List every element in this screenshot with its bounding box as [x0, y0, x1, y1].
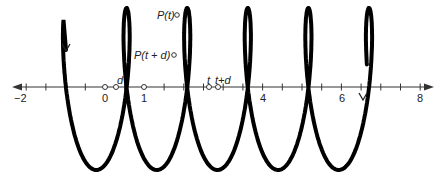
tick-label-0: 0 [102, 93, 108, 104]
label-p-t-plus-d: P(t + d) [134, 50, 170, 61]
label-t: t [207, 75, 210, 86]
point-zero [103, 85, 108, 90]
right-arrow-icon [424, 84, 434, 91]
left-arrow-icon [12, 84, 22, 91]
point-p-t-plus-d [172, 53, 177, 58]
tick-label-neg2: −2 [14, 93, 27, 104]
tick-label-1: 1 [141, 93, 147, 104]
tick-label-6: 6 [339, 93, 345, 104]
point-p-t [175, 13, 180, 18]
tick-label-4: 4 [260, 93, 266, 104]
label-t-plus-d: t+d [215, 75, 231, 86]
tick-label-8: 8 [417, 93, 423, 104]
point-one [142, 85, 147, 90]
label-p-t: P(t) [157, 10, 175, 21]
label-d: d [117, 75, 123, 86]
trochoid-diagram [0, 0, 443, 180]
